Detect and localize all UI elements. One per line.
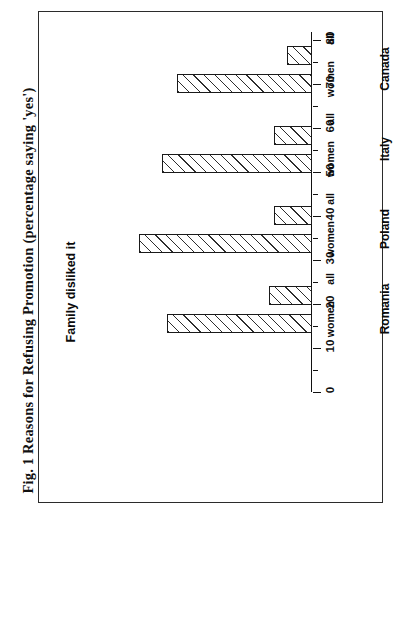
group-label-italy: Italy (378, 104, 392, 194)
series-label-women: women (324, 221, 336, 265)
axis-tick-major (313, 40, 321, 41)
group-label-canada: Canada (378, 24, 392, 114)
axis-tick-major (313, 304, 321, 305)
axis-tick-minor (313, 370, 318, 371)
axis-tick-major (313, 392, 321, 393)
figure-caption: Fig. 1 Reasons for Refusing Promotion (p… (20, 56, 37, 526)
bar-romania-all (269, 286, 312, 305)
bar-canada-women (177, 74, 312, 93)
axis-tick-minor (313, 62, 318, 63)
bar-poland-women (139, 234, 312, 253)
axis-tick-minor (313, 326, 318, 327)
axis-tick-minor (313, 150, 318, 151)
axis-tick-major (313, 172, 321, 173)
axis-tick-major (313, 128, 321, 129)
axis-tick-major (313, 84, 321, 85)
axis-tick-minor (313, 106, 318, 107)
axis-tick-major (313, 348, 321, 349)
series-label-women: women (324, 301, 336, 345)
bar-italy-all (274, 126, 312, 145)
axis-tick-label: 0 (324, 378, 336, 402)
axis-tick-minor (313, 238, 318, 239)
figure-page: Fig. 1 Reasons for Refusing Promotion (p… (0, 0, 400, 619)
bar-romania-women (167, 314, 312, 333)
series-label-women: women (324, 61, 336, 105)
axis-tick-major (313, 216, 321, 217)
axis-tick-major (313, 260, 321, 261)
series-label-women: women (324, 141, 336, 185)
bar-poland-all (274, 206, 312, 225)
bar-italy-women (162, 154, 312, 173)
group-label-romania: Romania (378, 264, 392, 354)
bar-canada-all (287, 46, 312, 65)
group-label-poland: Poland (378, 184, 392, 274)
axis-tick-minor (313, 282, 318, 283)
chart-plot-area: 01020304050607080 allwomenCanadaallwomen… (60, 36, 312, 396)
axis-tick-minor (313, 194, 318, 195)
